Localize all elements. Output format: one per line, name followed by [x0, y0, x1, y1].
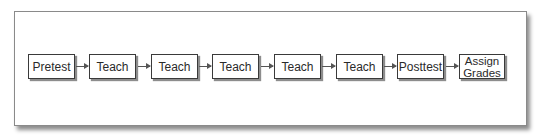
step-assign-grades: Assign Grades — [459, 54, 505, 79]
step-label: Teach — [158, 61, 190, 73]
step-label-line2: Grades — [463, 67, 501, 79]
arrow-connector — [384, 66, 396, 67]
step-label: Posttest — [399, 61, 442, 73]
step-label-line1: Assign — [465, 55, 500, 67]
arrow-connector — [322, 66, 335, 67]
step-label: Teach — [343, 61, 375, 73]
step-label: Teach — [281, 61, 313, 73]
step-posttest: Posttest — [397, 54, 444, 79]
step-teach-3: Teach — [212, 54, 259, 79]
arrow-connector — [199, 66, 211, 67]
step-label: Teach — [219, 61, 251, 73]
step-pretest: Pretest — [28, 54, 75, 79]
arrow-connector — [138, 66, 150, 67]
step-teach-2: Teach — [151, 54, 198, 79]
step-teach-1: Teach — [89, 54, 136, 79]
step-label: Pretest — [32, 61, 70, 73]
step-label: Teach — [96, 61, 128, 73]
step-teach-5: Teach — [336, 54, 383, 79]
arrow-connector — [76, 66, 88, 67]
arrow-connector — [261, 66, 273, 67]
arrow-connector — [446, 66, 458, 67]
step-teach-4: Teach — [274, 54, 321, 79]
